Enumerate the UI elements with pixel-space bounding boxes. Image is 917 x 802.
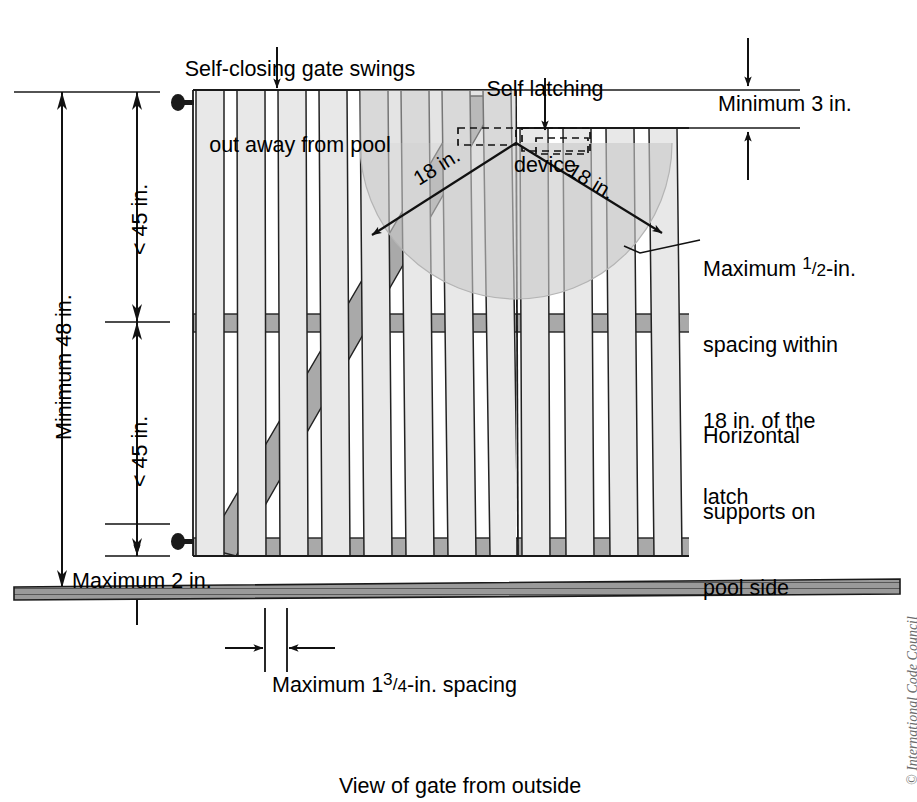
max-half-inch-suffix: -in. bbox=[826, 257, 856, 281]
latch-callout-line2: device bbox=[455, 153, 635, 178]
less-than-45-in-upper-label: < 45 in. bbox=[128, 184, 153, 255]
horizontal-supports-line3: pool side bbox=[703, 576, 913, 601]
min-3-in-label: Minimum 3 in. bbox=[718, 92, 852, 117]
horizontal-supports-line2: supports on bbox=[703, 500, 913, 525]
max-picket-spacing-label: Maximum 13/4-in. spacing bbox=[272, 673, 517, 698]
figure-caption: View of gate from outside (opposite pool… bbox=[275, 723, 645, 802]
latch-callout-line1: Self latching bbox=[455, 77, 635, 102]
minimum-48-in-label: Minimum 48 in. bbox=[52, 294, 77, 440]
copyright-notice: © International Code Council bbox=[905, 616, 917, 785]
maximum-2-in-label: Maximum 2 in. bbox=[72, 569, 212, 594]
spacing-fraction-denominator: 4 bbox=[397, 676, 407, 696]
three-quarters-fraction: 3/4 bbox=[383, 674, 407, 694]
horizontal-supports-line1: Horizontal bbox=[703, 424, 913, 449]
gate-hinge-bottom bbox=[171, 533, 194, 550]
fraction-denominator: 2 bbox=[817, 260, 827, 280]
gate-swing-callout: Self-closing gate swings out away from p… bbox=[155, 6, 445, 184]
gate-swing-line2: out away from pool bbox=[155, 133, 445, 158]
gate-swing-line1: Self-closing gate swings bbox=[155, 57, 445, 82]
max-half-inch-prefix: Maximum bbox=[703, 257, 802, 281]
diagram-canvas: Self-closing gate swings out away from p… bbox=[0, 0, 917, 802]
max-spacing-suffix: -in. spacing bbox=[407, 673, 517, 697]
max-half-inch-line1: Maximum 1/2-in. bbox=[703, 257, 913, 282]
less-than-45-in-lower-label: < 45 in. bbox=[128, 416, 153, 487]
half-inch-fraction: 1/2 bbox=[802, 258, 826, 278]
fraction-numerator: 1 bbox=[802, 253, 812, 273]
horizontal-supports-callout: Horizontal supports on pool side bbox=[703, 373, 913, 627]
spacing-fraction-numerator: 3 bbox=[383, 669, 393, 689]
max-half-inch-line2: spacing within bbox=[703, 333, 913, 358]
figure-caption-line1: View of gate from outside bbox=[275, 774, 645, 799]
max-spacing-prefix: Maximum 1 bbox=[272, 673, 383, 697]
